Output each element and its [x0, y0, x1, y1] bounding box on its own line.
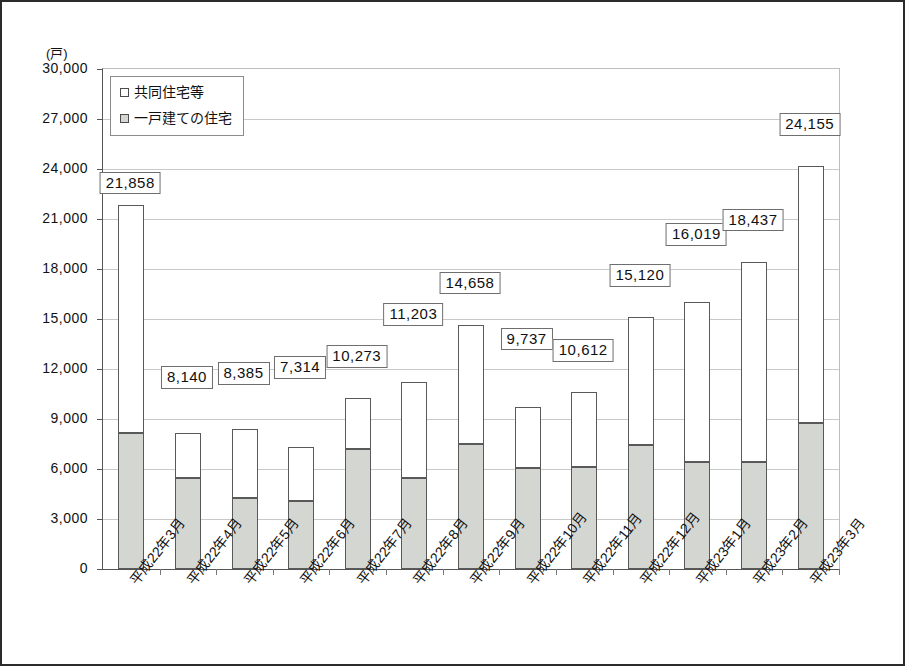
- bar-column: [515, 407, 541, 569]
- y-axis-tick-mark: [97, 419, 103, 420]
- y-axis-tick-label: 18,000: [2, 260, 88, 276]
- y-axis-tick-label: 6,000: [2, 460, 88, 476]
- bar-column: [798, 166, 824, 569]
- y-axis-tick-mark: [97, 569, 103, 570]
- bar-value-label: 9,737: [501, 328, 553, 351]
- y-axis-tick-label: 21,000: [2, 210, 88, 226]
- bar-value-label: 10,273: [326, 345, 387, 368]
- x-axis-tick-mark: [499, 569, 500, 575]
- bar-segment-ikkodate-jutaku: [118, 433, 144, 569]
- y-axis-tick-label: 12,000: [2, 360, 88, 376]
- x-axis-tick-mark: [386, 569, 387, 575]
- legend-item-kyodo-jutaku: 共同住宅等: [120, 83, 232, 102]
- x-axis-tick-mark: [839, 569, 840, 575]
- x-axis-tick-mark: [726, 569, 727, 575]
- x-axis-tick-mark: [443, 569, 444, 575]
- y-axis-tick-mark: [97, 219, 103, 220]
- bar-column: [571, 392, 597, 569]
- x-axis-tick-mark: [613, 569, 614, 575]
- bar-value-label: 15,120: [609, 264, 670, 287]
- legend-swatch-square-gray-icon: [120, 114, 129, 123]
- y-axis-tick-mark: [97, 119, 103, 120]
- bar-segment-kyodo-jutaku: [515, 407, 541, 468]
- bar-column: [345, 398, 371, 569]
- y-axis-tick-label: 0: [2, 560, 88, 576]
- y-axis-tick-mark: [97, 369, 103, 370]
- bar-segment-ikkodate-jutaku: [741, 462, 767, 569]
- bar-segment-ikkodate-jutaku: [798, 423, 824, 569]
- bar-column: [175, 433, 201, 569]
- y-axis-tick-mark: [97, 269, 103, 270]
- bar-value-label: 14,658: [440, 272, 501, 295]
- bar-segment-kyodo-jutaku: [684, 302, 710, 462]
- y-axis-tick-label: 3,000: [2, 510, 88, 526]
- gridline: [103, 269, 839, 270]
- bar-value-label: 7,314: [274, 356, 326, 379]
- bar-value-label: 24,155: [779, 113, 840, 136]
- x-axis-tick-mark: [273, 569, 274, 575]
- bar-segment-kyodo-jutaku: [628, 317, 654, 445]
- bar-segment-kyodo-jutaku: [798, 166, 824, 423]
- bar-segment-ikkodate-jutaku: [628, 445, 654, 569]
- legend-label-ikkodate-jutaku: 一戸建ての住宅: [134, 109, 232, 128]
- x-axis-tick-mark: [329, 569, 330, 575]
- bar-column: [288, 447, 314, 569]
- bar-segment-kyodo-jutaku: [288, 447, 314, 501]
- y-axis-tick-mark: [97, 69, 103, 70]
- y-axis-tick-mark: [97, 169, 103, 170]
- x-axis-tick-mark: [782, 569, 783, 575]
- bar-value-label: 8,140: [161, 366, 213, 389]
- gridline: [103, 319, 839, 320]
- bar-segment-ikkodate-jutaku: [458, 444, 484, 569]
- y-axis-tick-label: 9,000: [2, 410, 88, 426]
- y-axis-tick-mark: [97, 319, 103, 320]
- bar-column: [232, 429, 258, 569]
- bar-value-label: 10,612: [553, 339, 614, 362]
- y-axis-tick-label: 24,000: [2, 160, 88, 176]
- bar-value-label: 16,019: [666, 223, 727, 246]
- bar-segment-kyodo-jutaku: [401, 382, 427, 478]
- x-axis-tick-mark: [669, 569, 670, 575]
- bar-segment-kyodo-jutaku: [232, 429, 258, 498]
- bar-value-label: 18,437: [723, 209, 784, 232]
- bar-segment-kyodo-jutaku: [175, 433, 201, 478]
- bar-value-label: 8,385: [218, 362, 270, 385]
- bar-value-label: 11,203: [383, 303, 443, 326]
- bar-segment-kyodo-jutaku: [458, 325, 484, 444]
- y-axis-tick-label: 30,000: [2, 60, 88, 76]
- housing-starts-stacked-bar-chart: (戸) 共同住宅等 一戸建ての住宅 30,00027,00024,00021,0…: [0, 0, 905, 666]
- legend-item-ikkodate-jutaku: 一戸建ての住宅: [120, 109, 232, 128]
- bar-value-label: 21,858: [100, 172, 161, 195]
- legend-swatch-square-white-icon: [120, 88, 129, 97]
- bar-segment-kyodo-jutaku: [118, 205, 144, 433]
- legend-label-kyodo-jutaku: 共同住宅等: [134, 83, 204, 102]
- plot-area: [102, 68, 840, 570]
- x-axis-tick-mark: [216, 569, 217, 575]
- y-axis-tick-label: 27,000: [2, 110, 88, 126]
- bar-column: [118, 205, 144, 569]
- x-axis-tick-mark: [160, 569, 161, 575]
- chart-legend: 共同住宅等 一戸建ての住宅: [110, 76, 244, 136]
- bar-segment-kyodo-jutaku: [571, 392, 597, 467]
- bar-segment-ikkodate-jutaku: [345, 449, 371, 569]
- bar-segment-kyodo-jutaku: [345, 398, 371, 449]
- y-axis-tick-mark: [97, 519, 103, 520]
- bar-segment-kyodo-jutaku: [741, 262, 767, 462]
- y-axis-tick-mark: [97, 469, 103, 470]
- bar-column: [401, 382, 427, 569]
- gridline: [103, 169, 839, 170]
- x-axis-tick-mark: [556, 569, 557, 575]
- y-axis-tick-label: 15,000: [2, 310, 88, 326]
